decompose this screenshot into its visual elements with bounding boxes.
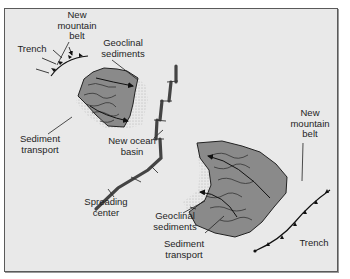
label-spreading-center: Spreading center xyxy=(80,197,132,218)
label-trench-left: Trench xyxy=(14,44,50,55)
left-landmass xyxy=(76,68,148,129)
label-new-mountain-belt-left: New mountain belt xyxy=(54,10,100,42)
label-sediment-transport-right: Sediment transport xyxy=(158,239,210,260)
label-trench-right: Trench xyxy=(296,238,332,249)
label-geoclinal-sediments-right: Geoclinal sediments xyxy=(148,211,202,232)
label-geoclinal-sediments-left: Geoclinal sediments xyxy=(96,38,150,59)
label-sediment-transport-left: Sediment transport xyxy=(14,134,66,155)
label-new-mountain-belt-right: New mountain belt xyxy=(287,108,333,140)
label-new-ocean-basin: New ocean basin xyxy=(104,136,160,157)
